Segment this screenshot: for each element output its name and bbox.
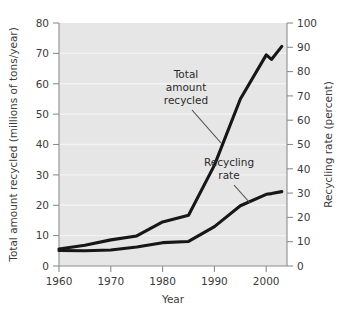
y2-tick-label: 90 [297, 41, 310, 53]
y-tick-label: 0 [42, 260, 49, 272]
y2-tick-label: 40 [297, 163, 310, 175]
y2-tick-label: 10 [297, 235, 310, 247]
y-axis-title: Total amount recycled (millions of tons/… [7, 27, 19, 262]
x-tick-label: 1970 [97, 275, 124, 287]
y2-tick-label: 60 [297, 114, 310, 126]
y-tick-label: 20 [36, 199, 49, 211]
recycling-trend-chart: 80 70 60 50 40 30 20 10 0 Total amount r… [0, 0, 340, 316]
y-tick-label: 30 [36, 169, 49, 181]
y-tick-label: 10 [36, 229, 49, 241]
x-axis-title: Year [161, 293, 185, 305]
y2-tick-label: 100 [297, 17, 317, 29]
y2-tick-label: 20 [297, 211, 310, 223]
x-tick-label: 1960 [46, 275, 73, 287]
y2-tick-label: 70 [297, 90, 310, 102]
annotation-rate-line-2: rate [218, 169, 239, 181]
x-tick-label: 1980 [149, 275, 176, 287]
y-tick-label: 40 [36, 138, 49, 150]
y-tick-label: 70 [36, 47, 49, 59]
y2-axis-title: Recycling rate (percent) [322, 81, 334, 208]
y-tick-label: 60 [36, 78, 49, 90]
annotation-rate-line-1: Recycling [204, 156, 254, 168]
y2-tick-label: 30 [297, 187, 310, 199]
x-tick-label: 2000 [253, 275, 280, 287]
x-tick-label: 1990 [201, 275, 228, 287]
annotation-total-line-3: recycled [164, 94, 208, 106]
y-tick-label: 80 [36, 17, 49, 29]
y2-tick-label: 0 [297, 260, 304, 272]
annotation-total-line-1: Total [173, 68, 199, 80]
annotation-total-line-2: amount [166, 81, 207, 93]
chart-container: 80 70 60 50 40 30 20 10 0 Total amount r… [0, 0, 340, 316]
y2-tick-label: 50 [297, 138, 310, 150]
y-tick-label: 50 [36, 108, 49, 120]
y2-tick-label: 80 [297, 65, 310, 77]
